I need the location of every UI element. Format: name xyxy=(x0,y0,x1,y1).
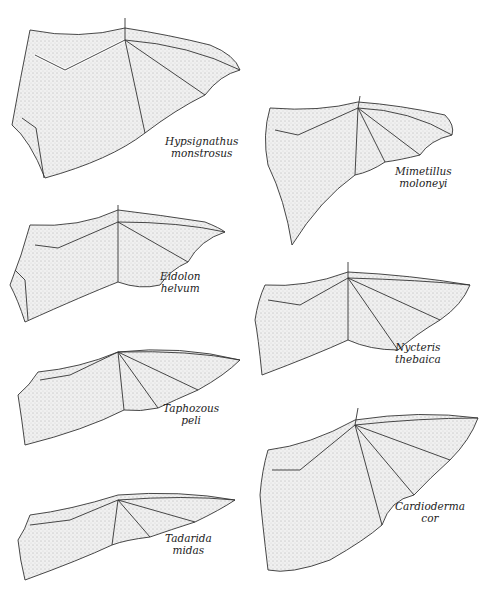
label-nycteris-thebaica: Nycteris thebaica xyxy=(395,341,441,365)
wing-taphozous-peli xyxy=(18,350,240,445)
species-name: moloneyi xyxy=(395,177,452,189)
label-tadarida-midas: Tadarida midas xyxy=(165,532,212,556)
species-name: monstrosus xyxy=(165,147,238,159)
genus-name: Tadarida xyxy=(165,532,212,544)
species-name: cor xyxy=(395,512,465,524)
genus-name: Hypsignathus xyxy=(165,135,238,147)
genus-name: Mimetillus xyxy=(395,165,452,177)
wing-eidolon-helvum xyxy=(10,205,225,322)
label-cardioderma-cor: Cardioderma cor xyxy=(395,500,465,524)
label-hypsignathus-monstrosus: Hypsignathus monstrosus xyxy=(165,135,238,159)
genus-name: Taphozous xyxy=(163,402,219,414)
species-name: midas xyxy=(165,544,212,556)
label-mimetillus-moloneyi: Mimetillus moloneyi xyxy=(395,165,452,189)
genus-name: Eidolon xyxy=(160,270,201,282)
label-eidolon-helvum: Eidolon helvum xyxy=(160,270,201,294)
wing-cardioderma-cor xyxy=(260,408,478,571)
species-name: helvum xyxy=(160,282,201,294)
species-name: thebaica xyxy=(395,353,441,365)
genus-name: Cardioderma xyxy=(395,500,465,512)
species-name: peli xyxy=(163,414,219,426)
label-taphozous-peli: Taphozous peli xyxy=(163,402,219,426)
genus-name: Nycteris xyxy=(395,341,441,353)
bat-wing-plate: Hypsignathus monstrosus Eidolon helvum T… xyxy=(0,0,495,601)
